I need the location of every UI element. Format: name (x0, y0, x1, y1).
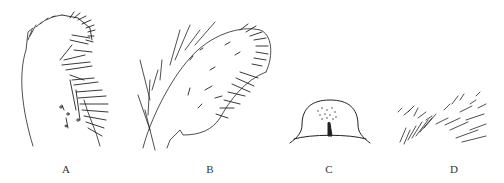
panel-a-drawing (22, 12, 108, 146)
panel-d-drawing (398, 92, 486, 144)
panel-c-drawing (290, 100, 370, 143)
panel-b-drawing (138, 22, 271, 150)
panel-label-c: C (325, 163, 332, 175)
panel-label-a: A (62, 163, 70, 175)
panel-label-d: D (450, 163, 458, 175)
panel-label-b: B (206, 163, 213, 175)
figure-canvas (0, 0, 504, 183)
